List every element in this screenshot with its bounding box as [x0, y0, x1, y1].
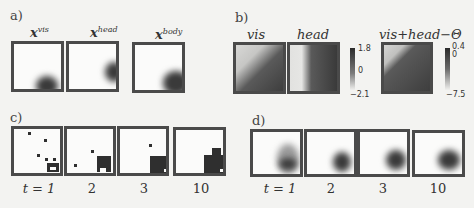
map-vis-head-theta: [381, 42, 433, 94]
title-x-body: xbody: [155, 27, 182, 42]
cbar2-min: −7.5: [446, 90, 465, 99]
map-vis-field: [233, 42, 286, 94]
title-vis-head-theta: vis+head−Θ: [379, 27, 462, 42]
map-d-t1: [250, 129, 303, 177]
c-time-10: 10: [176, 181, 226, 196]
title-head: head: [297, 27, 329, 42]
cbar1-max: 1.8: [358, 44, 371, 53]
c-time-2: 2: [67, 181, 117, 196]
map-x-body: [132, 42, 185, 93]
map-d-t2: [304, 129, 357, 177]
c-time-3: 3: [119, 181, 169, 196]
map-x-head: [66, 41, 119, 92]
d-time-3: 3: [358, 181, 408, 196]
colorbar-1: [350, 48, 355, 90]
panel-d-label: d): [252, 113, 265, 128]
cbar1-mid: 0: [358, 66, 363, 75]
cbar1-min: −2.1: [350, 90, 369, 99]
grid-c-t10: [173, 127, 226, 176]
panel-c-label: c): [10, 110, 22, 125]
title-x-vis: xvis: [30, 25, 49, 40]
panel-a-label: a): [10, 8, 23, 23]
d-time-1: t = 1: [255, 181, 305, 196]
grid-c-t2: [64, 126, 116, 176]
title-x-head: xhead: [90, 25, 118, 40]
d-time-10: 10: [413, 181, 463, 196]
map-x-vis: [11, 41, 64, 92]
cbar2-mid: 0: [452, 50, 457, 59]
grid-c-t3: [117, 126, 169, 176]
title-vis: vis: [247, 27, 265, 42]
panel-b-label: b): [235, 10, 248, 25]
c-time-1: t = 1: [14, 181, 64, 196]
map-head-field: [287, 42, 340, 94]
map-d-t10: [412, 130, 465, 177]
map-d-t3: [357, 129, 410, 177]
grid-c-t1: [11, 126, 63, 176]
colorbar-2: [445, 48, 450, 90]
d-time-2: 2: [306, 181, 356, 196]
